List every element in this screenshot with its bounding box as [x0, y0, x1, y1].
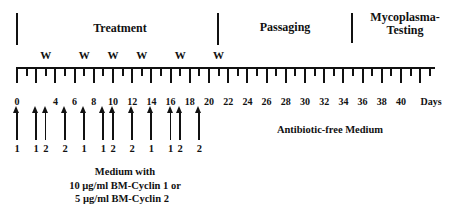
axis-tick	[198, 68, 200, 76]
treatment-label: 1	[145, 143, 157, 154]
axis-tick-label: 34	[333, 96, 353, 107]
washout-marker: W	[77, 49, 91, 61]
axis-unit-label: Days	[416, 96, 446, 107]
axis-tick-label: 24	[237, 96, 257, 107]
axis-tick-label: 36	[353, 96, 373, 107]
phase-label-mycoplasma-line2: Testing	[360, 24, 449, 37]
axis-tick	[410, 68, 412, 76]
axis-tick	[419, 68, 421, 83]
up-arrow-icon	[12, 106, 22, 140]
washout-marker: W	[135, 49, 149, 61]
axis-tick	[304, 68, 306, 83]
axis-tick	[141, 68, 143, 76]
up-arrow-icon	[194, 106, 204, 140]
phase-divider-treatment-passaging	[217, 13, 219, 45]
axis-tick	[352, 68, 354, 76]
treatment-label: 2	[126, 143, 138, 154]
up-arrow-icon	[166, 106, 176, 140]
up-arrow-icon	[31, 106, 41, 140]
axis-tick	[362, 68, 364, 83]
axis-tick-label: 30	[295, 96, 315, 107]
axis-tick	[256, 68, 258, 76]
axis-tick	[54, 68, 56, 83]
axis-tick-label: 38	[372, 96, 392, 107]
axis-tick	[74, 68, 76, 83]
axis-tick	[266, 68, 268, 83]
treatment-label: 2	[40, 143, 52, 154]
axis-tick-label: 32	[314, 96, 334, 107]
medium-note-line3: 5 µg/ml BM-Cyclin 2	[34, 192, 210, 206]
treatment-label: 2	[174, 143, 186, 154]
axis-tick	[208, 68, 210, 83]
axis-tick	[45, 68, 47, 76]
axis-tick	[227, 68, 229, 83]
axis-tick	[314, 68, 316, 76]
up-arrow-icon	[127, 106, 137, 140]
axis-tick	[371, 68, 373, 76]
axis-tick-label: 28	[276, 96, 296, 107]
axis-tick	[179, 68, 181, 76]
axis-tick	[112, 68, 114, 83]
up-arrow-icon	[98, 106, 108, 140]
medium-note-line1: Medium with	[40, 165, 210, 179]
axis-tick	[150, 68, 152, 83]
washout-marker: W	[212, 49, 226, 61]
axis-tick	[16, 68, 18, 83]
axis-tick	[83, 68, 85, 76]
axis-tick	[131, 68, 133, 83]
axis-tick-label: 40	[391, 96, 411, 107]
up-arrow-icon	[79, 106, 89, 140]
phase-divider-passaging-testing	[351, 13, 353, 43]
axis-tick	[35, 68, 37, 83]
axis-tick	[429, 68, 431, 76]
up-arrow-icon	[146, 106, 156, 140]
antibiotic-free-note: Antibiotic-free Medium	[255, 123, 405, 137]
up-arrow-icon	[175, 106, 185, 140]
axis-tick	[294, 68, 296, 76]
medium-note: Medium with 10 µg/ml BM-Cyclin 1 or 5 µg…	[40, 165, 210, 206]
washout-marker: W	[173, 49, 187, 61]
axis-tick	[390, 68, 392, 76]
axis-tick	[381, 68, 383, 83]
medium-note-line2: 10 µg/ml BM-Cyclin 1 or	[40, 179, 210, 193]
phase-label-mycoplasma: Mycoplasma- Testing	[360, 11, 449, 37]
up-arrow-icon	[108, 106, 118, 140]
axis-tick	[275, 68, 277, 76]
axis-tick	[342, 68, 344, 83]
axis-tick	[170, 68, 172, 83]
axis-tick	[122, 68, 124, 76]
treatment-label: 2	[59, 143, 71, 154]
axis-tick	[400, 68, 402, 83]
axis-tick-label: 22	[218, 96, 238, 107]
axis-tick	[323, 68, 325, 83]
axis-tick-label: 26	[257, 96, 277, 107]
axis-tick	[237, 68, 239, 76]
treatment-label: 1	[78, 143, 90, 154]
axis-tick	[189, 68, 191, 83]
washout-marker: W	[39, 49, 53, 61]
washout-marker: W	[106, 49, 120, 61]
axis-tick	[285, 68, 287, 83]
axis-tick	[26, 68, 28, 76]
axis-tick	[64, 68, 66, 76]
up-arrow-icon	[60, 106, 70, 140]
axis-tick	[246, 68, 248, 83]
phase-label-passaging: Passaging	[240, 21, 330, 34]
axis-tick	[333, 68, 335, 76]
treatment-label: 2	[193, 143, 205, 154]
treatment-label: 1	[11, 143, 23, 154]
phase-label-treatment: Treatment	[70, 22, 170, 35]
axis-tick	[93, 68, 95, 83]
axis-tick	[160, 68, 162, 76]
up-arrow-icon	[41, 106, 51, 140]
axis-tick	[102, 68, 104, 76]
treatment-label: 2	[107, 143, 119, 154]
phase-divider-start	[16, 13, 18, 45]
axis-tick	[218, 68, 220, 76]
